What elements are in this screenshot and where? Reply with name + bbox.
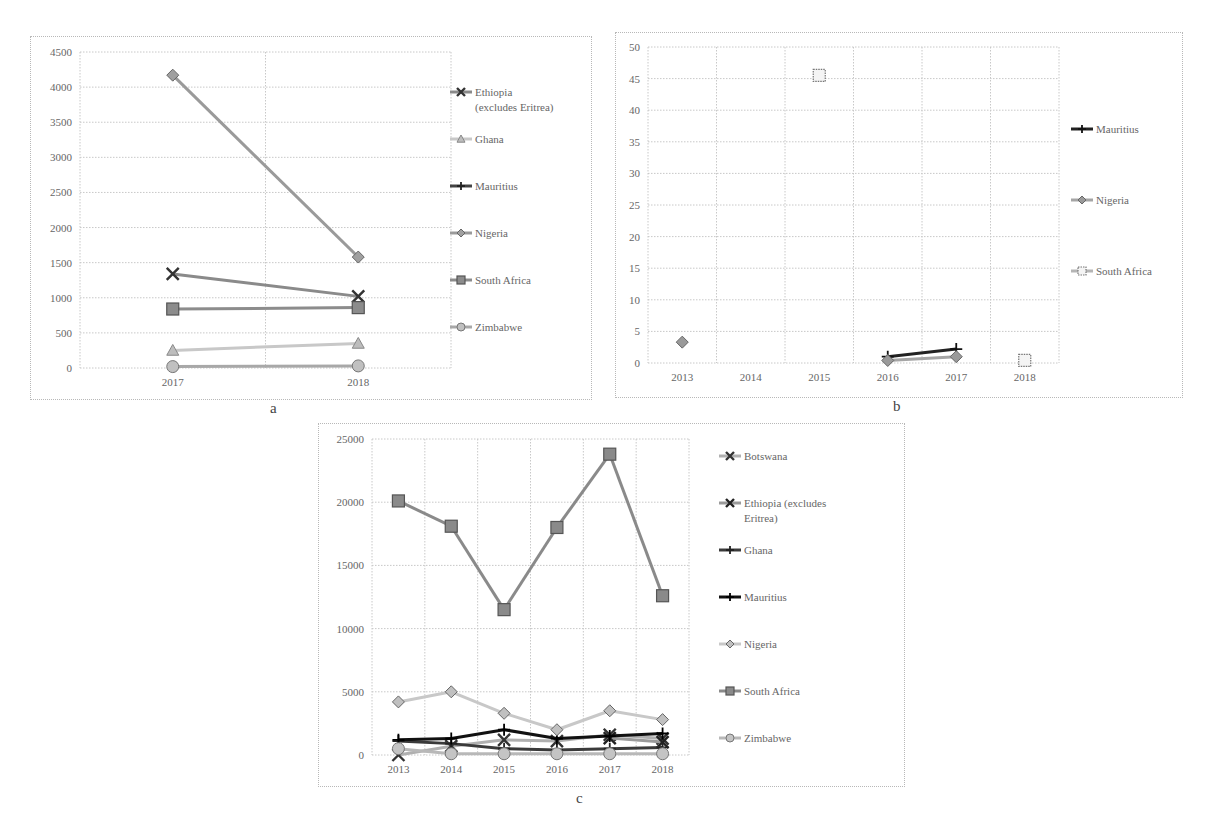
legend-item-nigeria: Nigeria xyxy=(450,227,508,239)
legend-item-mauritius: Mauritius xyxy=(719,591,787,603)
data-point xyxy=(498,707,510,719)
data-point xyxy=(551,748,563,760)
y-tick-label: 25000 xyxy=(337,433,365,445)
chart-b: 0510152025303540455020132014201520162017… xyxy=(616,33,1184,399)
series-line-segment xyxy=(557,736,610,739)
series-line-segment xyxy=(504,749,557,750)
series-line-segment xyxy=(557,711,610,730)
y-tick-label: 1000 xyxy=(50,292,73,304)
data-point xyxy=(1019,354,1031,366)
data-point xyxy=(445,748,457,760)
chart-a: 0500100015002000250030003500400045002017… xyxy=(31,37,593,401)
y-tick-label: 0 xyxy=(67,362,73,374)
series-line-segment xyxy=(398,501,451,526)
x-tick-label: 2017 xyxy=(945,371,968,383)
data-point xyxy=(352,302,364,314)
series-line-segment xyxy=(888,357,957,361)
legend-item-ethiopia-excludes-eritrea: Ethiopia(excludes Eritrea) xyxy=(450,86,554,114)
x-tick-label: 2018 xyxy=(347,376,370,388)
legend-marker xyxy=(1078,125,1086,133)
series-nigeria xyxy=(676,336,962,366)
legend-label: (excludes Eritrea) xyxy=(475,101,554,114)
gridlines xyxy=(648,47,1059,363)
legend-item-mauritius: Mauritius xyxy=(1071,123,1139,135)
x-tick-label: 2018 xyxy=(1014,371,1037,383)
legend-marker xyxy=(1078,196,1086,204)
legend-label: Nigeria xyxy=(1096,194,1129,206)
legend-label: South Africa xyxy=(475,274,531,286)
data-point xyxy=(498,748,510,760)
series-line-segment xyxy=(173,366,359,367)
caption-a: a xyxy=(270,400,277,417)
gridlines xyxy=(80,52,451,368)
x-tick-label: 2015 xyxy=(808,371,831,383)
data-point xyxy=(392,743,404,755)
data-point xyxy=(167,361,179,373)
legend-label: Mauritius xyxy=(744,591,787,603)
legend-label: Nigeria xyxy=(744,638,777,650)
legend-label: Ghana xyxy=(744,544,773,556)
x-tick-label: 2016 xyxy=(877,371,900,383)
y-tick-label: 40 xyxy=(629,104,641,116)
x-tick-label: 2018 xyxy=(652,763,675,775)
legend-item-south-africa: South Africa xyxy=(450,274,531,286)
legend-item-botswana: Botswana xyxy=(719,450,788,462)
y-tick-label: 2000 xyxy=(50,222,73,234)
gridlines xyxy=(372,439,689,755)
y-tick-label: 0 xyxy=(359,749,365,761)
data-point xyxy=(657,748,669,760)
x-tick-label: 2016 xyxy=(546,763,569,775)
y-tick-label: 500 xyxy=(56,327,73,339)
x-tick-label: 2013 xyxy=(671,371,694,383)
x-tick-label: 2014 xyxy=(440,763,463,775)
y-tick-label: 45 xyxy=(629,73,641,85)
legend-label: Ethiopia (excludes xyxy=(744,497,826,510)
y-tick-label: 10 xyxy=(629,294,641,306)
data-point xyxy=(551,521,563,533)
series-line-segment xyxy=(610,747,663,748)
caption-b: b xyxy=(893,398,901,415)
chart-c: 0500010000150002000025000201320142015201… xyxy=(319,424,906,788)
y-tick-label: 15 xyxy=(629,262,641,274)
panel-b: 0510152025303540455020132014201520162017… xyxy=(615,32,1183,398)
legend: BotswanaEthiopia (excludesEritrea)GhanaM… xyxy=(719,450,826,744)
y-tick-label: 35 xyxy=(629,136,641,148)
y-tick-label: 15000 xyxy=(337,559,365,571)
legend-item-ethiopia-excludes-eritrea: Ethiopia (excludesEritrea) xyxy=(719,497,826,525)
data-point xyxy=(813,69,825,81)
y-tick-label: 4000 xyxy=(50,81,73,93)
legend-label: Botswana xyxy=(744,450,788,462)
x-tick-label: 2014 xyxy=(740,371,763,383)
data-point xyxy=(657,714,669,726)
series-ethiopia-excludes-eritrea xyxy=(167,268,365,302)
legend-label: Mauritius xyxy=(1096,123,1139,135)
y-tick-label: 2500 xyxy=(50,186,73,198)
x-tick-label: 2017 xyxy=(162,376,185,388)
series-line-segment xyxy=(557,454,610,527)
x-tick-label: 2015 xyxy=(493,763,516,775)
y-tick-label: 3500 xyxy=(50,116,73,128)
y-tick-label: 1500 xyxy=(50,257,73,269)
data-point xyxy=(445,520,457,532)
data-point xyxy=(392,495,404,507)
legend: MauritiusNigeriaSouth Africa xyxy=(1071,123,1152,277)
legend-marker xyxy=(1078,267,1086,275)
legend-item-mauritius: Mauritius xyxy=(450,180,518,192)
legend-marker xyxy=(457,182,465,190)
series-line-segment xyxy=(504,740,557,741)
data-point xyxy=(676,336,688,348)
data-point xyxy=(604,705,616,717)
legend-marker xyxy=(726,734,734,742)
x-tick-label: 2013 xyxy=(387,763,410,775)
legend-label: Nigeria xyxy=(475,227,508,239)
data-point xyxy=(392,696,404,708)
panel-a: 0500100015002000250030003500400045002017… xyxy=(30,36,592,400)
data-point xyxy=(167,303,179,315)
data-point xyxy=(604,748,616,760)
legend-item-nigeria: Nigeria xyxy=(719,638,777,650)
legend-marker xyxy=(726,640,734,648)
legend-label: Ethiopia xyxy=(475,86,512,98)
data-point xyxy=(445,686,457,698)
data-point xyxy=(950,351,962,363)
series-line-segment xyxy=(557,749,610,750)
